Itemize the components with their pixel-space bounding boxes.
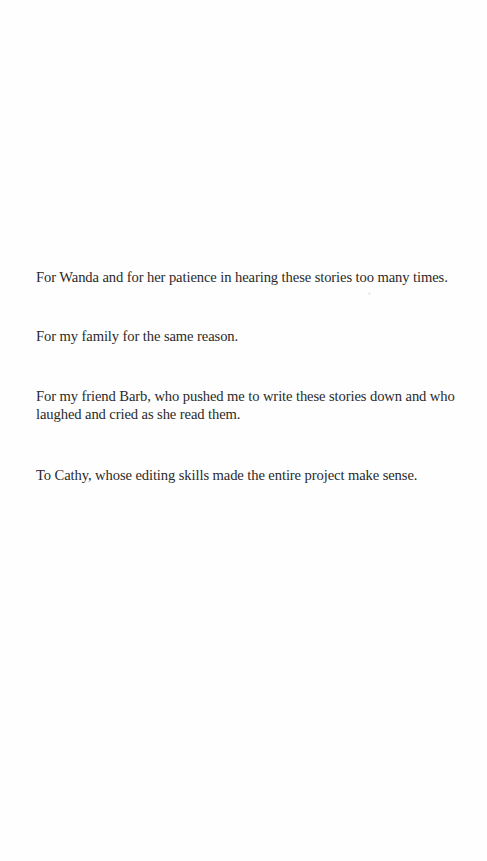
dedication-paragraph-cathy: To Cathy, whose editing skills made the … <box>36 466 466 484</box>
dedication-page: For Wanda and for her patience in hearin… <box>0 0 487 861</box>
dedication-paragraph-family: For my family for the same reason. <box>36 327 466 345</box>
scan-speck <box>368 292 371 295</box>
dedication-paragraph-barb: For my friend Barb, who pushed me to wri… <box>36 387 466 423</box>
dedication-paragraph-wanda: For Wanda and for her patience in hearin… <box>36 268 466 286</box>
